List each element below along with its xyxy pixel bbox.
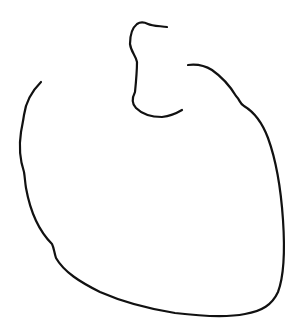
heart-body-outline (20, 65, 284, 317)
drawing-canvas (0, 0, 299, 335)
heart-vessel-neck (130, 23, 182, 118)
heart-sketch-svg (0, 0, 299, 335)
